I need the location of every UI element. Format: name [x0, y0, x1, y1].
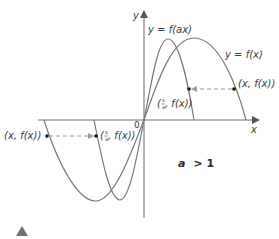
origin-label: 0 [134, 120, 140, 130]
label-right-scaled-rest: , f(x)) [165, 98, 193, 109]
curve-label-f-x: y = f(x) [224, 49, 263, 60]
label-left-original: (x, f(x)) [4, 130, 41, 141]
curve-label-f-ax: y = f(ax) [147, 24, 192, 35]
point-left-scaled [94, 134, 98, 138]
point-right-scaled [187, 87, 191, 91]
condition-relation: > 1 [194, 157, 215, 170]
label-right-scaled: ( x a , f(x)) [157, 97, 193, 110]
x-axis-label: x [250, 124, 257, 135]
label-left-scaled-rest: , f(x)) [108, 130, 136, 141]
condition-label: a > 1 [178, 152, 214, 171]
transformation-diagram: y x 0 y = f(ax) y = f(x) (x, f(x)) ( x a… [0, 0, 279, 239]
point-left-original [45, 134, 49, 138]
point-right-original [232, 87, 236, 91]
condition-variable: a [178, 157, 185, 170]
label-right-original: (x, f(x)) [238, 78, 275, 89]
y-axis-label: y [132, 10, 140, 21]
corner-triangle-icon [16, 226, 28, 236]
label-left-scaled: ( x a , f(x)) [100, 129, 136, 142]
